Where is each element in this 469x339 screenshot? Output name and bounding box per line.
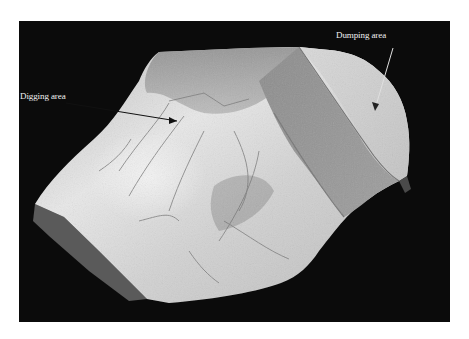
digging-area-label: Digging area [20,91,66,101]
dumping-area-label: Dumping area [336,30,386,40]
terrain-render [19,21,450,322]
figure-frame: Digging area Dumping area [19,21,450,322]
